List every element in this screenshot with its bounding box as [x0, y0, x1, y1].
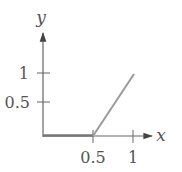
series-rising-segment	[93, 74, 134, 136]
y-tick-label-1: 1	[19, 64, 29, 83]
y-tick-label-05: 0.5	[5, 93, 30, 112]
x-axis-label: x	[156, 125, 166, 145]
x-tick-label-1: 1	[128, 148, 138, 167]
chart: y x 1 0.5 0.5 1	[0, 0, 182, 172]
y-axis-label: y	[35, 7, 46, 27]
x-tick-label-05: 0.5	[80, 148, 105, 167]
